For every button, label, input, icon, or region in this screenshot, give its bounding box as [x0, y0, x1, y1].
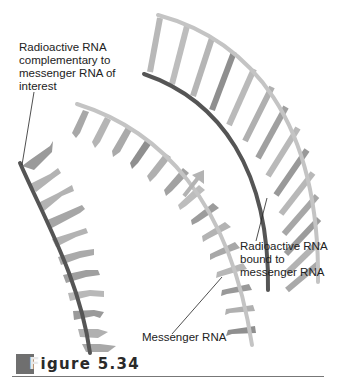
caption-divider [12, 376, 324, 377]
figure-title-rest: igure 5.34 [41, 355, 140, 373]
figure-first-letter: F [29, 355, 41, 373]
leader-line-complementary [22, 92, 34, 165]
figure-number: Figure 5.34 [16, 355, 140, 373]
figure-caption: Figure 5.34 [16, 354, 140, 374]
label-messenger-rna: Messenger RNA [142, 331, 226, 344]
messenger-rna-free [72, 104, 256, 345]
leader-line-messenger [172, 277, 222, 334]
label-radioactive-bound: Radioactive RNA bound to messenger RNA [240, 240, 328, 279]
radioactive-rna-free [20, 141, 116, 353]
label-radioactive-complementary: Radioactive RNA complementary to messeng… [19, 41, 116, 93]
